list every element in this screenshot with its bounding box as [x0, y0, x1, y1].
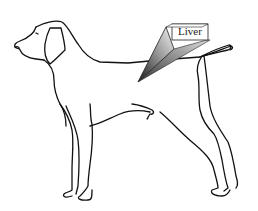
dog-eye: [36, 33, 38, 34]
dog-ear: [45, 28, 65, 64]
liver-callout: Liver: [138, 24, 210, 82]
liver-label: Liver: [178, 25, 202, 37]
dog-anatomy-diagram: Liver: [0, 0, 258, 211]
dog-outline: [15, 21, 238, 200]
dog-tail: [200, 46, 232, 57]
dog-chest-front: [44, 60, 66, 126]
dog-hind-leg-inner: [204, 56, 238, 188]
dog-snout: [15, 27, 44, 60]
dog-hind-leg-back: [160, 112, 230, 196]
dog-hind-leg-front: [197, 56, 228, 191]
dog-front-leg-1: [78, 104, 92, 200]
dog-belly: [90, 111, 150, 126]
